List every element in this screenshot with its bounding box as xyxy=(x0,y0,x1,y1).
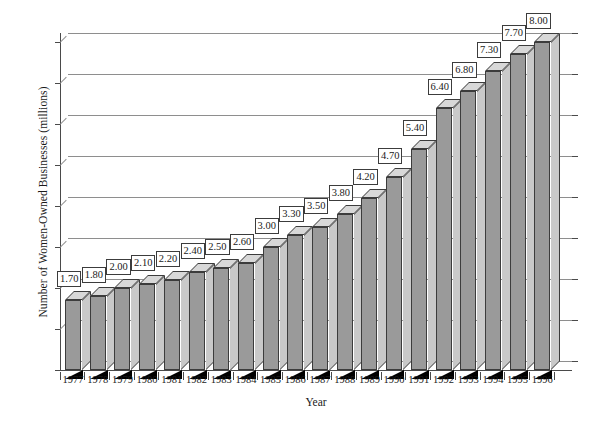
y-axis-title: Number of Women-Owned Businesses (millio… xyxy=(37,52,49,352)
bar[interactable] xyxy=(386,177,413,370)
x-tick-separator xyxy=(529,372,530,380)
x-tick-label: 1983 xyxy=(209,374,234,385)
x-tick-separator xyxy=(480,372,481,380)
bar-front-face xyxy=(65,300,81,370)
bar[interactable] xyxy=(510,54,537,370)
bar-front-face xyxy=(114,288,130,370)
bar-front-face xyxy=(510,54,526,370)
bar[interactable] xyxy=(139,284,166,370)
bar[interactable] xyxy=(164,280,191,370)
x-tick-separator xyxy=(430,372,431,380)
x-tick-label: 1993 xyxy=(456,374,481,385)
y-tick-mark-right xyxy=(572,33,578,34)
bar[interactable] xyxy=(189,272,216,370)
bar-value-label: 3.50 xyxy=(304,198,328,214)
x-tick-label: 1986 xyxy=(283,374,308,385)
bar-front-face xyxy=(460,91,476,370)
bar-front-face xyxy=(361,198,377,370)
x-tick-separator xyxy=(405,372,406,380)
x-tick-separator xyxy=(307,372,308,380)
x-tick-separator xyxy=(554,372,555,380)
bar[interactable] xyxy=(213,268,240,371)
x-tick-separator xyxy=(504,372,505,380)
bar-chart: Number of Women-Owned Businesses (millio… xyxy=(0,0,603,434)
bar-value-label: 6.40 xyxy=(428,79,452,95)
y-tick-mark-right xyxy=(572,320,578,321)
x-tick-separator xyxy=(109,372,110,380)
x-tick-separator xyxy=(282,372,283,380)
bar-value-label: 2.40 xyxy=(181,243,205,259)
bar-front-face xyxy=(90,296,106,370)
bar[interactable] xyxy=(534,42,561,370)
bar[interactable] xyxy=(361,198,388,370)
bar[interactable] xyxy=(90,296,117,370)
bar[interactable] xyxy=(337,214,364,370)
x-tick-label: 1985 xyxy=(258,374,283,385)
bar-value-label: 3.30 xyxy=(279,206,303,222)
x-tick-separator xyxy=(257,372,258,380)
bar-front-face xyxy=(485,71,501,370)
bar-front-face xyxy=(287,235,303,370)
x-tick-label: 1979 xyxy=(110,374,135,385)
x-tick-label: 1978 xyxy=(85,374,110,385)
bar-front-face xyxy=(312,227,328,371)
x-tick-label: 1980 xyxy=(135,374,160,385)
y-tick-mark xyxy=(55,165,60,166)
y-tick-mark xyxy=(55,288,60,289)
bar[interactable] xyxy=(65,300,92,370)
y-tick-mark-right xyxy=(572,279,578,280)
bar-front-face xyxy=(164,280,180,370)
bar-front-face xyxy=(386,177,402,370)
bar-value-label: 1.70 xyxy=(57,271,81,287)
bar-value-label: 4.70 xyxy=(378,148,402,164)
y-tick-mark xyxy=(55,42,60,43)
x-tick-label: 1984 xyxy=(234,374,259,385)
y-tick-mark-right xyxy=(572,115,578,116)
bar[interactable] xyxy=(114,288,141,370)
bar-value-label: 2.60 xyxy=(230,234,254,250)
y-tick-mark xyxy=(55,124,60,125)
bar-value-label: 6.80 xyxy=(452,62,476,78)
x-tick-separator xyxy=(455,372,456,380)
y-tick-mark-right xyxy=(572,156,578,157)
x-tick-label: 1987 xyxy=(308,374,333,385)
y-tick-mark xyxy=(55,329,60,330)
x-axis-title: Year xyxy=(60,396,572,408)
bar-value-label: 2.00 xyxy=(106,259,130,275)
x-tick-separator xyxy=(158,372,159,380)
x-tick-label: 1994 xyxy=(481,374,506,385)
bar[interactable] xyxy=(436,108,463,370)
x-tick-label: 1988 xyxy=(332,374,357,385)
bar[interactable] xyxy=(411,149,438,370)
bar-value-label: 7.30 xyxy=(477,42,501,58)
x-tick-label: 1992 xyxy=(431,374,456,385)
bar[interactable] xyxy=(287,235,314,370)
x-tick-label: 1989 xyxy=(357,374,382,385)
bar-value-label: 1.80 xyxy=(82,267,106,283)
y-tick-mark-right xyxy=(572,74,578,75)
x-tick-separator xyxy=(84,372,85,380)
bar-value-label: 8.00 xyxy=(526,13,550,29)
bar[interactable] xyxy=(312,227,339,371)
x-tick-label: 1981 xyxy=(159,374,184,385)
x-tick-separator xyxy=(183,372,184,380)
x-tick-label: 1991 xyxy=(406,374,431,385)
x-tick-label: 1982 xyxy=(184,374,209,385)
bar-front-face xyxy=(189,272,205,370)
y-tick-mark xyxy=(55,370,60,371)
bar[interactable] xyxy=(238,263,265,370)
x-tick-label: 1996 xyxy=(530,374,555,385)
y-tick-mark xyxy=(55,247,60,248)
bar-front-face xyxy=(337,214,353,370)
bar[interactable] xyxy=(485,71,512,370)
x-tick-separator xyxy=(134,372,135,380)
bar-front-face xyxy=(263,247,279,370)
bar[interactable] xyxy=(263,247,290,370)
bar-front-face xyxy=(213,268,229,371)
bar[interactable] xyxy=(460,91,487,370)
bar-value-label: 4.20 xyxy=(353,169,377,185)
x-tick-separator xyxy=(60,372,61,380)
x-tick-separator xyxy=(233,372,234,380)
bar-front-face xyxy=(411,149,427,370)
bar-value-label: 2.10 xyxy=(131,255,155,271)
